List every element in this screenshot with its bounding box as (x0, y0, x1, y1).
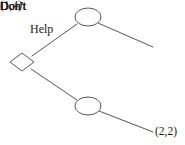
game-tree-figure: Help Don't Don't Don't (1,4) (2,2) (0, 0, 185, 145)
decision-node-diamond (10, 53, 34, 71)
branch-line-dont-upper (98, 23, 153, 47)
game-tree-canvas (0, 0, 185, 145)
branch-line-dont-lower (31, 69, 77, 100)
branch-line-dont-bottom (99, 111, 153, 132)
payoff-label-upper: (1,4) (0, 0, 22, 12)
chance-node-upper-ellipse (75, 8, 101, 26)
payoff-label-lower: (2,2) (155, 126, 177, 138)
branch-label-help: Help (30, 23, 53, 35)
chance-node-lower-ellipse (75, 97, 101, 115)
